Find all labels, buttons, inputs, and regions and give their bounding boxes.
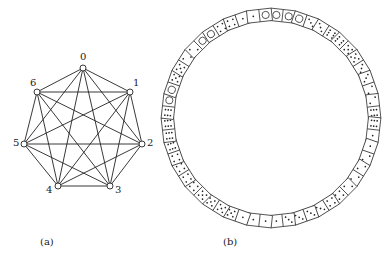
- domino-ring: [161, 8, 381, 228]
- domino: [366, 93, 381, 119]
- graph-node: [127, 89, 133, 95]
- node-label: 3: [115, 184, 121, 195]
- caption-a: (a): [40, 236, 54, 247]
- complete-graph-k7: 0123456: [13, 51, 153, 195]
- caption-b: (b): [223, 236, 237, 247]
- domino: [161, 117, 176, 143]
- graph-edge: [58, 144, 142, 186]
- graph-node: [55, 183, 61, 189]
- graph-node: [80, 65, 86, 71]
- node-label: 1: [133, 77, 139, 88]
- domino: [270, 213, 296, 228]
- graph-edge: [83, 68, 130, 92]
- node-label: 2: [147, 137, 153, 148]
- graph-edge: [58, 92, 130, 186]
- graph-node: [21, 141, 27, 147]
- node-label: 6: [30, 77, 36, 88]
- graph-node: [34, 89, 40, 95]
- domino: [246, 8, 272, 23]
- graph-edge: [37, 92, 142, 144]
- graph-edge: [24, 92, 130, 144]
- graph-edges: [24, 68, 142, 186]
- node-label: 0: [80, 51, 86, 62]
- node-label: 5: [13, 137, 19, 148]
- node-label: 4: [46, 184, 52, 195]
- graph-edge: [58, 68, 83, 186]
- figure: 0123456 (a) (b): [0, 0, 392, 268]
- graph-edge: [24, 144, 110, 186]
- graph-node: [107, 183, 113, 189]
- graph-edge: [37, 68, 83, 92]
- graph-node: [139, 141, 145, 147]
